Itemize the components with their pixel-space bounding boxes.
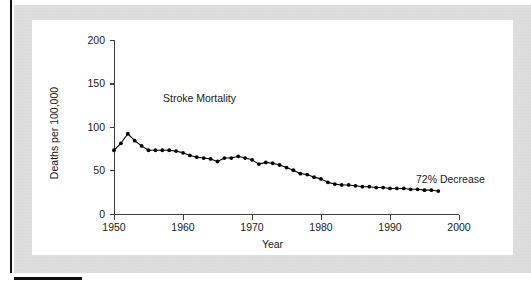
data-point-marker <box>223 156 227 160</box>
data-point-marker <box>174 149 178 153</box>
data-point-marker <box>133 139 137 143</box>
data-point-marker <box>381 186 385 190</box>
data-point-marker <box>188 154 192 158</box>
series-plot <box>32 20 513 255</box>
data-point-marker <box>264 160 268 164</box>
figure-panel: 050100150200 195019601970198019902000 St… <box>32 20 513 255</box>
data-point-marker <box>402 187 406 191</box>
figure-root: 050100150200 195019601970198019902000 St… <box>0 0 531 283</box>
data-point-marker <box>436 189 440 193</box>
x-axis-title: Year <box>32 238 513 250</box>
data-point-marker <box>181 151 185 155</box>
stroke-mortality-line <box>114 134 438 191</box>
data-point-marker <box>229 156 233 160</box>
data-point-marker <box>147 148 151 152</box>
data-point-marker <box>319 177 323 181</box>
data-point-marker <box>195 155 199 159</box>
data-point-marker <box>430 188 434 192</box>
series-label-stroke-mortality: Stroke Mortality <box>163 92 236 104</box>
data-point-marker <box>374 186 378 190</box>
page-bottom-bar <box>14 277 82 280</box>
data-point-marker <box>409 187 413 191</box>
data-point-marker <box>236 154 240 158</box>
data-point-marker <box>257 162 261 166</box>
data-point-marker <box>160 148 164 152</box>
data-point-marker <box>333 182 337 186</box>
plot-area: 050100150200 195019601970198019902000 St… <box>32 20 513 255</box>
data-point-marker <box>202 156 206 160</box>
data-point-marker <box>250 158 254 162</box>
data-point-marker <box>388 187 392 191</box>
data-point-marker <box>367 185 371 189</box>
data-point-marker <box>292 168 296 172</box>
data-point-marker <box>271 161 275 165</box>
data-point-marker <box>298 172 302 176</box>
data-point-marker <box>278 163 282 167</box>
data-point-marker <box>340 183 344 187</box>
data-point-marker <box>154 148 158 152</box>
data-point-marker <box>243 156 247 160</box>
page-spine-rule <box>10 0 12 273</box>
data-point-marker <box>119 141 123 145</box>
data-point-marker <box>395 187 399 191</box>
data-point-marker <box>423 188 427 192</box>
data-point-marker <box>326 180 330 184</box>
data-point-marker <box>361 185 365 189</box>
data-point-marker <box>416 187 420 191</box>
data-point-marker <box>167 148 171 152</box>
y-axis-title: Deaths per 100,000 <box>48 68 60 198</box>
data-point-marker <box>285 166 289 170</box>
data-point-marker <box>140 144 144 148</box>
data-point-marker <box>312 175 316 179</box>
stroke-mortality-markers <box>112 132 440 193</box>
annotation-72-percent-decrease: 72% Decrease <box>416 173 485 185</box>
data-point-marker <box>209 157 213 161</box>
data-point-marker <box>305 173 309 177</box>
data-point-marker <box>126 132 130 136</box>
data-point-marker <box>216 160 220 164</box>
data-point-marker <box>112 148 116 152</box>
data-point-marker <box>354 184 358 188</box>
data-point-marker <box>347 183 351 187</box>
